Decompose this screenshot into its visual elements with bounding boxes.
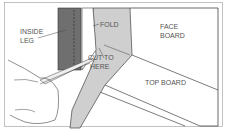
label-inside-leg-2: LEG xyxy=(20,37,34,45)
label-face-1: FACE xyxy=(160,23,178,31)
upholstery-illustration xyxy=(0,0,227,130)
diagram-canvas: INSIDE LEG FOLD CUT TO HERE FACE BOARD T… xyxy=(0,0,227,130)
label-face-2: BOARD xyxy=(160,32,185,40)
label-cut-1: CUT TO xyxy=(88,54,114,62)
label-top-board: TOP BOARD xyxy=(145,79,186,87)
label-fold: FOLD xyxy=(100,21,119,29)
label-cut-2: HERE xyxy=(90,63,109,71)
inside-leg xyxy=(58,8,81,70)
hand-icon xyxy=(8,60,59,124)
label-inside-leg-1: INSIDE xyxy=(20,28,43,36)
